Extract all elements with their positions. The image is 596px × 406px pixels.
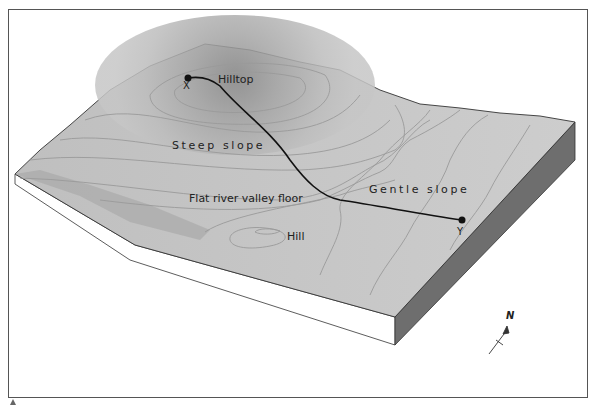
label-hilltop: Hilltop <box>218 73 253 86</box>
point-y-marker <box>459 217 466 224</box>
label-hill: Hill <box>287 230 304 243</box>
label-point-y: Y <box>457 226 463 237</box>
label-flat-valley: Flat river valley floor <box>189 192 303 205</box>
label-gentle-slope: Gentle slope <box>369 183 469 196</box>
label-north: N <box>506 310 514 321</box>
north-arrow-icon <box>489 326 509 354</box>
label-steep-slope: Steep slope <box>172 139 265 152</box>
label-point-x: X <box>183 80 190 91</box>
corner-marker-icon <box>10 399 16 405</box>
